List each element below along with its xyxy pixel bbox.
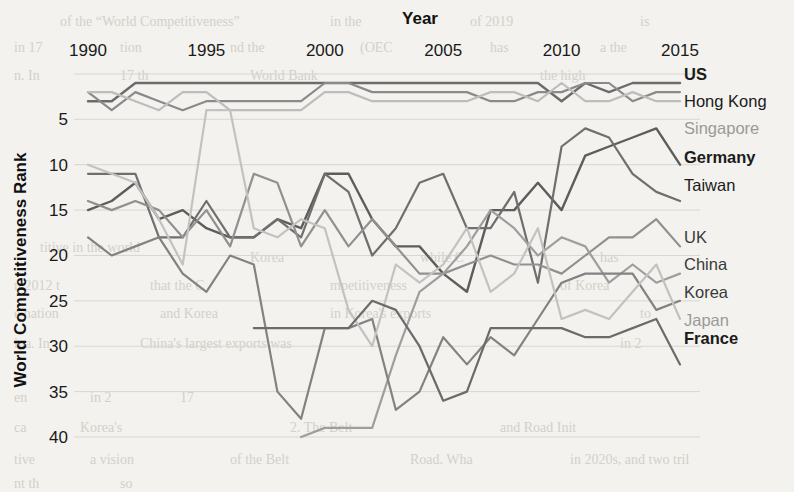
x-axis-tick-labels: 199019952000200520102015 (69, 41, 699, 60)
y-tick-label: 35 (49, 383, 68, 402)
y-tick-label: 10 (49, 156, 68, 175)
series-line-france (254, 301, 680, 401)
legend-label-korea: Korea (684, 283, 729, 301)
y-tick-label: 40 (49, 428, 68, 447)
y-tick-label: 20 (49, 246, 68, 265)
y-tick-label: 30 (49, 337, 68, 356)
legend-label-japan: Japan (684, 311, 729, 329)
legend-label-france: France (684, 329, 738, 347)
y-axis-tick-labels: 510152025303540 (49, 110, 68, 447)
legend-label-hong-kong: Hong Kong (684, 92, 767, 110)
legend-label-singapore: Singapore (684, 119, 759, 137)
x-tick-label: 2005 (424, 41, 462, 60)
y-axis-title: World Competitiveness Rank (11, 152, 30, 387)
legend-label-us: US (684, 65, 707, 83)
series-line-taiwan (88, 128, 680, 282)
y-tick-label: 25 (49, 292, 68, 311)
legend-label-germany: Germany (684, 148, 756, 166)
y-tick-label: 15 (49, 201, 68, 220)
x-tick-label: 2015 (661, 41, 699, 60)
legend-label-taiwan: Taiwan (684, 176, 735, 194)
legend: USHong KongSingaporeGermanyTaiwanUKChina… (684, 65, 767, 347)
x-tick-label: 1995 (187, 41, 225, 60)
x-axis-title: Year (402, 9, 438, 28)
x-tick-label: 1990 (69, 41, 107, 60)
legend-label-uk: UK (684, 228, 707, 246)
x-tick-label: 2000 (306, 41, 344, 60)
legend-label-china: China (684, 255, 728, 273)
series-lines (88, 83, 680, 437)
y-tick-label: 5 (59, 110, 68, 129)
x-tick-label: 2010 (543, 41, 581, 60)
series-line-singapore (88, 83, 680, 110)
series-line-japan (88, 110, 680, 346)
series-line-uk (88, 174, 680, 274)
